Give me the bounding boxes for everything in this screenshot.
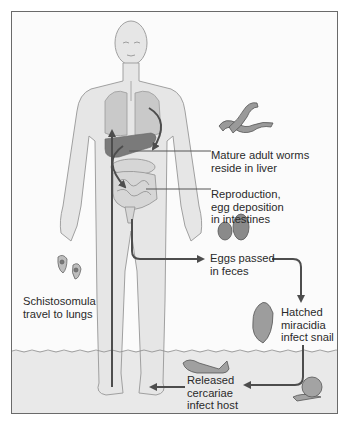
label-adult-worms: Mature adult worms reside in liver <box>211 149 309 174</box>
worm-pair-icon <box>219 103 273 133</box>
label-schistosomula: Schistosomula travel to lungs <box>23 295 96 320</box>
label-miracidia: Hatched miracidia infect snail <box>281 306 334 344</box>
life-cycle-artwork <box>12 12 338 414</box>
miracidium-icon <box>253 302 273 343</box>
arrow-to-cercariae <box>245 345 303 385</box>
cercaria-icon <box>183 360 229 373</box>
diagram-frame: Mature adult worms reside in liver Repro… <box>11 11 338 414</box>
schistosomulum-icon <box>58 255 81 279</box>
water-line <box>12 350 338 352</box>
label-cercariae: Released cercariae infect host <box>187 374 238 412</box>
label-eggs: Eggs passed in feces <box>210 252 275 277</box>
snail-icon <box>293 377 322 401</box>
label-reproduction: Reproduction, egg deposition in intestin… <box>211 188 284 226</box>
arrow-to-miracidia <box>272 259 301 301</box>
